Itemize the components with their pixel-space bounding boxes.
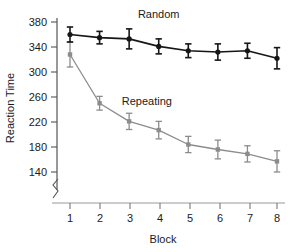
y-axis-ticks (51, 22, 57, 172)
x-tick-label-6: 6 (217, 212, 223, 224)
data-point (67, 32, 72, 37)
y-tick-label-140: 140 (29, 166, 47, 178)
data-point (275, 159, 279, 163)
y-tick-label-260: 260 (29, 91, 47, 103)
data-point (215, 49, 220, 54)
data-point (157, 128, 161, 132)
series-random (67, 27, 280, 69)
x-tick-label-7: 7 (247, 212, 253, 224)
x-tick-label-2: 2 (97, 212, 103, 224)
data-point (245, 152, 249, 156)
x-tick-label-3: 3 (127, 212, 133, 224)
data-point (127, 119, 131, 123)
y-tick-label-220: 220 (29, 116, 47, 128)
y-tick-label-300: 300 (29, 66, 47, 78)
reaction-time-line-chart: 380 340 300 260 220 180 140 1 2 3 4 5 6 (0, 0, 291, 252)
data-point (127, 36, 132, 41)
data-point (186, 142, 190, 146)
x-tick-label-4: 4 (157, 212, 163, 224)
y-axis-tick-labels: 380 340 300 260 220 180 140 (29, 16, 47, 178)
data-point (186, 48, 191, 53)
y-tick-label-380: 380 (29, 16, 47, 28)
chart-figure: 380 340 300 260 220 180 140 1 2 3 4 5 6 (0, 0, 291, 252)
x-tick-label-8: 8 (274, 212, 280, 224)
y-axis-title: Reaction Time (4, 73, 16, 143)
y-tick-label-340: 340 (29, 41, 47, 53)
data-point (245, 48, 250, 53)
data-point (156, 44, 161, 49)
x-axis-ticks (70, 203, 277, 209)
x-axis-tick-labels: 1 2 3 4 5 6 7 8 (67, 212, 280, 224)
series-repeating (67, 42, 280, 172)
x-tick-label-1: 1 (67, 212, 73, 224)
data-point (216, 147, 220, 151)
x-axis-title: Block (150, 233, 177, 245)
y-tick-label-180: 180 (29, 141, 47, 153)
data-point (97, 101, 101, 105)
x-tick-label-5: 5 (187, 212, 193, 224)
series-label-random: Random (138, 8, 180, 20)
data-point (274, 56, 279, 61)
data-point (97, 35, 102, 40)
data-point (68, 52, 72, 56)
series-label-repeating: Repeating (122, 95, 172, 107)
